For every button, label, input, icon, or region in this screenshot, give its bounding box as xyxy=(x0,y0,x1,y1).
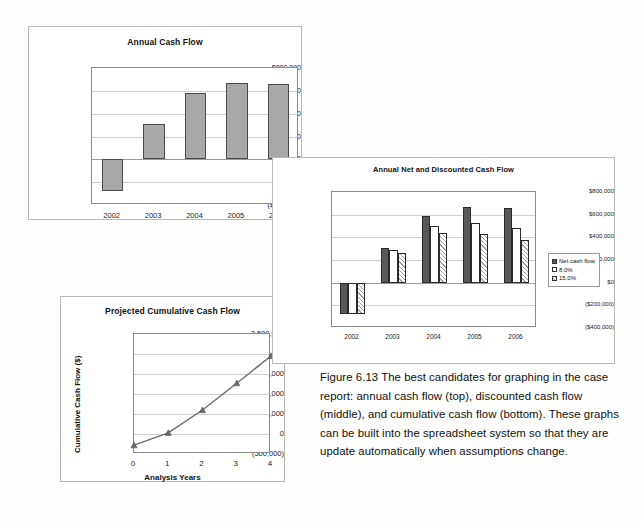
bar-net xyxy=(381,248,389,283)
y-tick-label: ($200,000) xyxy=(560,301,614,307)
x-tick-label: 4 xyxy=(268,459,272,468)
bar-net xyxy=(463,207,471,282)
bar xyxy=(268,84,290,159)
x-tick-label: 0 xyxy=(131,459,135,468)
legend-swatch-icon xyxy=(552,276,557,281)
x-tick-label: 2006 xyxy=(508,333,522,340)
x-tick-label: 1 xyxy=(165,459,169,468)
x-tick-label: 2002 xyxy=(344,333,358,340)
legend-label: 8.0% xyxy=(559,266,573,275)
bar xyxy=(185,93,207,160)
bar-disc8 xyxy=(389,250,397,282)
annual-net-and-discounted-cash-flow-legend: Net cash flow8.0%15.0% xyxy=(548,253,600,287)
bar xyxy=(143,124,165,159)
projected-cumulative-cash-flow-title: Projected Cumulative Cash Flow xyxy=(61,306,284,316)
annual-cash-flow-plot-area xyxy=(91,67,298,204)
legend-label: 15.0% xyxy=(559,274,576,283)
projected-cumulative-cash-flow-panel: Projected Cumulative Cash Flow Cumulativ… xyxy=(60,296,285,482)
y-tick-label: ($400,000) xyxy=(560,324,614,330)
x-tick-label: 2003 xyxy=(385,333,399,340)
annual-cash-flow-plot: $800,000$600,000$400,000$200,000$0($200,… xyxy=(29,47,301,230)
analysis-years-axis-title: Analysis Years xyxy=(61,473,284,482)
bar-net xyxy=(340,283,348,315)
x-tick-label: 2005 xyxy=(228,211,245,220)
x-tick-label: 2003 xyxy=(145,211,162,220)
bar-disc8 xyxy=(430,226,438,283)
bar-disc15 xyxy=(521,240,529,283)
legend-swatch-icon xyxy=(552,267,557,272)
bar-net xyxy=(504,208,512,283)
bar xyxy=(102,159,124,191)
x-tick-label: 3 xyxy=(234,459,238,468)
y-tick-label: $800,000 xyxy=(560,188,614,194)
bar-disc8 xyxy=(471,223,479,283)
bar-disc8 xyxy=(512,228,520,283)
annual-net-and-discounted-cash-flow-title: Annual Net and Discounted Cash Flow xyxy=(273,165,614,174)
bar-disc8 xyxy=(348,283,356,315)
y-tick-label: $600,000 xyxy=(560,211,614,217)
y-tick-label: $400,000 xyxy=(560,233,614,239)
legend-item: 8.0% xyxy=(552,266,595,275)
figure-caption: Figure 6.13 The best candidates for grap… xyxy=(320,368,620,461)
annual-cash-flow-panel: Annual Cash Flow $800,000$600,000$400,00… xyxy=(28,26,302,220)
legend-item: 15.0% xyxy=(552,274,595,283)
cumulative-cash-flow-series xyxy=(134,334,271,454)
annual-net-and-discounted-cash-flow-panel: Annual Net and Discounted Cash Flow $800… xyxy=(272,157,615,364)
x-tick-label: 2005 xyxy=(467,333,481,340)
legend-label: Net cash flow xyxy=(559,257,595,266)
bar-net xyxy=(422,216,430,282)
projected-cumulative-cash-flow-plot-area xyxy=(133,333,270,453)
x-tick-label: 2004 xyxy=(186,211,203,220)
x-tick-label: 2004 xyxy=(426,333,440,340)
legend-swatch-icon xyxy=(552,259,557,264)
x-tick-label: 2002 xyxy=(103,211,120,220)
annual-cash-flow-title: Annual Cash Flow xyxy=(29,37,301,47)
annual-net-and-discounted-cash-flow-plot-area xyxy=(331,191,536,327)
bar-disc15 xyxy=(398,253,406,283)
projected-cumulative-cash-flow-plot: Cumulative Cash Flow ($) 2,500,0002,000,… xyxy=(61,316,284,487)
bar-disc15 xyxy=(439,233,447,283)
annual-net-and-discounted-cash-flow-plot: $800,000$600,000$400,000$200,000$0($200,… xyxy=(273,174,614,353)
bar-disc15 xyxy=(480,234,488,283)
legend-item: Net cash flow xyxy=(552,257,595,266)
x-tick-label: 2 xyxy=(199,459,203,468)
bar-disc15 xyxy=(357,283,365,315)
bar xyxy=(226,83,248,159)
